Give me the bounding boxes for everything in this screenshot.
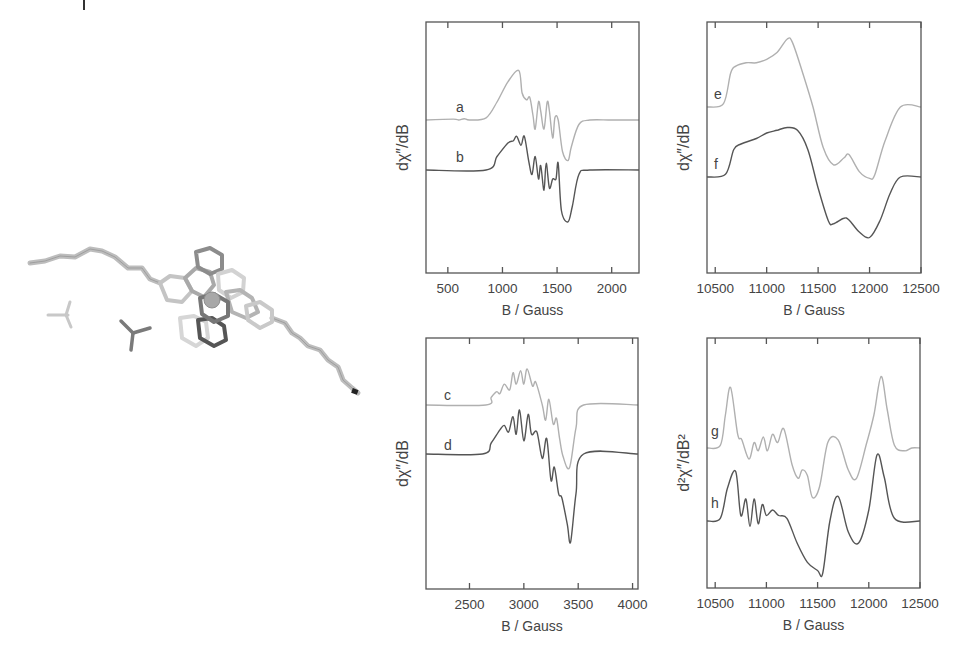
molecule-structure	[30, 248, 359, 395]
x-tick-label: 10500	[696, 281, 734, 296]
y-axis-title: d²χ″/dB²	[675, 434, 692, 492]
plot-frame	[426, 22, 639, 273]
trace-f	[707, 127, 921, 238]
x-tick-label: 4000	[618, 597, 648, 612]
x-tick-label: 1500	[542, 281, 572, 296]
trace-label-b: b	[456, 149, 464, 165]
x-axis-title: B / Gauss	[501, 618, 562, 634]
trace-label-d: d	[444, 437, 452, 453]
x-tick-label: 12000	[850, 596, 888, 611]
plot-frame	[707, 338, 920, 588]
x-tick-label: 11000	[748, 281, 785, 296]
trace-label-h: h	[711, 495, 719, 511]
trace-c	[426, 369, 638, 469]
panel-bottom-left: cd2500300035004000B / Gaussdχ″/dB	[394, 338, 648, 634]
trace-label-c: c	[444, 387, 451, 403]
trace-label-e: e	[714, 86, 722, 102]
x-tick-label: 12500	[902, 281, 940, 296]
x-tick-label: 3500	[563, 597, 593, 612]
x-tick-label: 11500	[799, 596, 836, 611]
x-axis-title: B / Gauss	[783, 617, 844, 633]
x-tick-label: 3000	[509, 597, 539, 612]
x-axis-title: B / Gauss	[502, 302, 563, 318]
plot-frame	[707, 22, 921, 273]
y-axis-title: dχ″/dB	[394, 440, 411, 487]
trace-h	[707, 454, 920, 577]
panel-top-right: ef1050011000115001200012500B / Gaussdχ″/…	[675, 22, 940, 318]
x-tick-label: 2000	[597, 281, 627, 296]
trace-label-a: a	[456, 99, 464, 115]
x-tick-label: 11000	[748, 596, 785, 611]
trace-label-f: f	[714, 156, 718, 172]
x-tick-label: 2500	[454, 597, 484, 612]
plot-frame	[426, 338, 638, 589]
panel-bottom-right: gh1050011000115001200012500B / Gaussd²χ″…	[675, 338, 939, 633]
y-axis-title: dχ″/dB	[675, 124, 692, 171]
x-tick-label: 500	[437, 281, 460, 296]
trace-a	[426, 70, 639, 160]
trace-e	[707, 38, 921, 179]
panel-top-left: ab500100015002000B / Gaussdχ″/dB	[394, 22, 639, 318]
trace-label-g: g	[711, 423, 719, 439]
x-tick-label: 12000	[851, 281, 889, 296]
x-tick-label: 10500	[696, 596, 734, 611]
x-tick-label: 1000	[487, 281, 517, 296]
y-axis-title: dχ″/dB	[394, 124, 411, 171]
trace-g	[707, 376, 920, 497]
figure-canvas: ab500100015002000B / Gaussdχ″/dBef105001…	[0, 0, 965, 661]
trace-d	[426, 410, 638, 543]
x-axis-title: B / Gauss	[783, 302, 844, 318]
x-tick-label: 12500	[901, 596, 939, 611]
x-tick-label: 11500	[800, 281, 837, 296]
